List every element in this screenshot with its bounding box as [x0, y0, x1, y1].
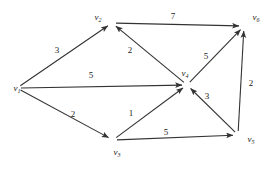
graph-figure: 3522751532v1v2v3v4v5v6: [0, 0, 274, 169]
graph-edge-v3-v4: [116, 88, 183, 138]
edge-weight-v5-v6: 2: [249, 79, 254, 88]
edge-weight-v4-v6: 5: [204, 52, 209, 61]
node-subscript-v3: 3: [118, 152, 121, 158]
graph-canvas: [0, 0, 274, 169]
edge-weight-v4-v2: 2: [128, 46, 133, 55]
edge-weight-v1-v2: 3: [55, 46, 60, 55]
node-label-v1: v1: [14, 84, 21, 93]
node-label-v2: v2: [95, 13, 102, 22]
edge-weight-v3-v4: 1: [129, 109, 134, 118]
edge-weight-v1-v3: 2: [71, 110, 76, 119]
node-label-v3: v3: [114, 148, 121, 157]
node-label-v5: v5: [248, 135, 255, 144]
graph-edge-v5-v4: [191, 89, 236, 133]
graph-edge-v1-v2: [20, 26, 108, 86]
edge-layer: [20, 23, 243, 140]
node-subscript-v2: 2: [99, 17, 102, 23]
node-label-v4: v4: [182, 69, 189, 78]
edge-weight-v5-v4: 3: [205, 92, 210, 101]
graph-edge-v4-v2: [116, 26, 184, 82]
node-subscript-v5: 5: [252, 139, 255, 145]
edge-weight-v1-v4: 5: [89, 71, 94, 80]
node-subscript-v1: 1: [18, 88, 21, 94]
graph-edge-v1-v4: [21, 85, 182, 88]
graph-edge-v3-v5: [117, 135, 233, 140]
graph-edge-v2-v6: [116, 23, 239, 26]
node-subscript-v4: 4: [186, 73, 189, 79]
edge-weight-v3-v5: 5: [164, 128, 169, 137]
node-subscript-v6: 6: [257, 17, 260, 23]
graph-edge-v5-v6: [238, 31, 244, 131]
graph-edge-v1-v3: [21, 90, 109, 138]
edge-weight-v2-v6: 7: [171, 12, 176, 21]
node-label-v6: v6: [253, 13, 260, 22]
graph-edge-v4-v6: [190, 30, 241, 83]
